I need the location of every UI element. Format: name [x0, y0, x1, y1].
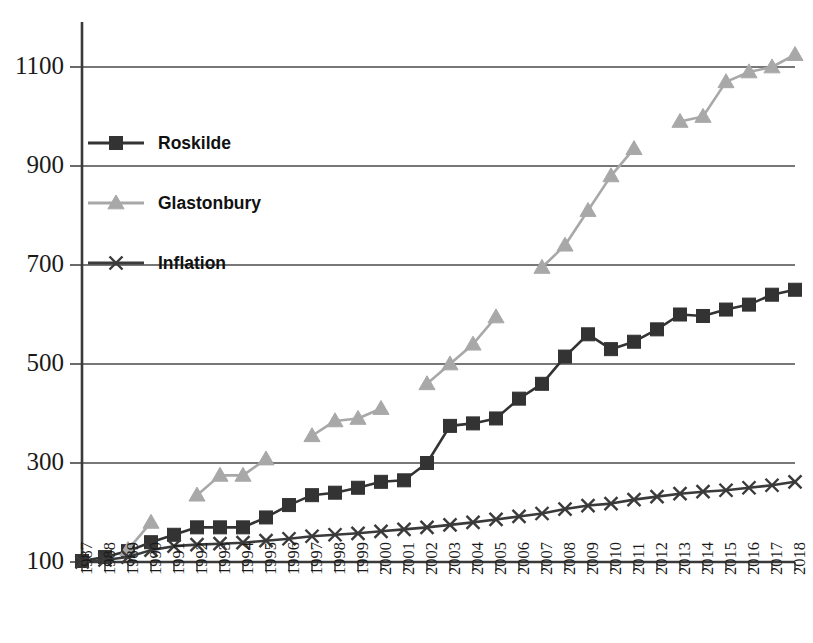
data-point-roskilde-2010 [605, 343, 618, 356]
legend-label-glastonbury: Glastonbury [158, 193, 261, 213]
x-tick-label-2009: 2009 [583, 542, 602, 575]
x-tick-label-2000: 2000 [376, 542, 395, 575]
x-tick-label-1995: 1995 [261, 542, 280, 575]
data-point-roskilde-2002 [421, 457, 434, 470]
y-tick-label-1100: 1100 [15, 52, 64, 79]
data-point-roskilde-2011 [628, 335, 641, 348]
data-point-roskilde-2005 [490, 412, 503, 425]
data-point-roskilde-1995 [260, 511, 273, 524]
data-point-roskilde-1991 [168, 528, 181, 541]
data-point-roskilde-2000 [375, 475, 388, 488]
data-point-roskilde-1998 [329, 486, 342, 499]
x-tick-label-2002: 2002 [422, 542, 441, 575]
x-tick-label-1993: 1993 [215, 542, 234, 575]
x-tick-label-1987: 1987 [77, 542, 96, 575]
x-tick-label-2013: 2013 [675, 542, 694, 575]
x-tick-label-1989: 1989 [123, 542, 142, 575]
x-tick-label-2014: 2014 [698, 542, 717, 575]
y-tick-label-900: 900 [27, 151, 65, 178]
x-tick-label-2006: 2006 [514, 542, 533, 575]
x-tick-label-2016: 2016 [744, 542, 763, 575]
data-point-roskilde-2007 [536, 377, 549, 390]
y-tick-label-700: 700 [27, 250, 65, 277]
x-tick-label-1992: 1992 [192, 542, 211, 575]
data-point-roskilde-2004 [467, 417, 480, 430]
data-point-roskilde-1992 [191, 521, 204, 534]
data-point-roskilde-1997 [306, 489, 319, 502]
x-tick-label-2005: 2005 [491, 542, 510, 575]
data-point-roskilde-2014 [697, 309, 710, 322]
x-tick-label-2003: 2003 [445, 542, 464, 575]
x-tick-label-1999: 1999 [353, 542, 372, 575]
data-point-roskilde-2009 [582, 328, 595, 341]
data-point-roskilde-2018 [789, 283, 802, 296]
x-tick-label-1991: 1991 [169, 542, 188, 575]
data-point-roskilde-2003 [444, 419, 457, 432]
data-point-roskilde-1993 [214, 521, 227, 534]
x-tick-label-1988: 1988 [100, 542, 119, 575]
x-tick-label-2007: 2007 [537, 542, 556, 575]
data-point-roskilde-1996 [283, 499, 296, 512]
x-tick-label-1997: 1997 [307, 542, 326, 575]
y-tick-label-100: 100 [27, 547, 65, 574]
x-tick-label-1998: 1998 [330, 542, 349, 575]
x-tick-label-2004: 2004 [468, 542, 487, 575]
data-point-roskilde-2015 [720, 303, 733, 316]
x-tick-label-1990: 1990 [146, 542, 165, 575]
legend-marker-square-icon [110, 137, 123, 150]
x-tick-label-2015: 2015 [721, 542, 740, 575]
x-tick-label-2001: 2001 [399, 542, 418, 575]
x-tick-label-2012: 2012 [652, 542, 671, 575]
data-point-roskilde-2017 [766, 288, 779, 301]
data-point-roskilde-2001 [398, 474, 411, 487]
legend-label-inflation: Inflation [158, 253, 226, 273]
line-chart: 1003005007009001100 19871988198919901991… [0, 0, 813, 643]
data-point-roskilde-2013 [674, 308, 687, 321]
data-point-roskilde-2008 [559, 350, 572, 363]
y-tick-label-500: 500 [27, 349, 65, 376]
x-tick-label-2011: 2011 [629, 543, 648, 575]
data-point-roskilde-1999 [352, 481, 365, 494]
x-tick-label-2008: 2008 [560, 542, 579, 575]
data-point-roskilde-2006 [513, 392, 526, 405]
x-tick-label-1996: 1996 [284, 542, 303, 575]
data-point-roskilde-2016 [743, 298, 756, 311]
x-tick-label-2010: 2010 [606, 542, 625, 575]
chart-canvas: 1003005007009001100 19871988198919901991… [0, 0, 813, 643]
legend-label-roskilde: Roskilde [158, 133, 231, 153]
y-tick-label-300: 300 [27, 448, 65, 475]
data-point-roskilde-2012 [651, 323, 664, 336]
data-point-roskilde-1994 [237, 521, 250, 534]
x-tick-label-2018: 2018 [790, 542, 809, 575]
x-tick-label-1994: 1994 [238, 542, 257, 575]
x-tick-label-2017: 2017 [767, 542, 786, 575]
